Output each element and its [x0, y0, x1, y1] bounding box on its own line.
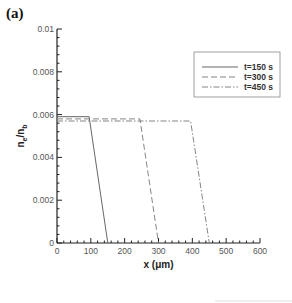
x-tick-label: 500	[219, 246, 233, 256]
x-tick-label: 600	[253, 246, 267, 256]
y-tick-label: 0.002	[33, 195, 55, 205]
x-tick-label: 400	[185, 246, 199, 256]
x-tick-label: 200	[118, 246, 132, 256]
x-tick-label: 300	[151, 246, 165, 256]
series-line-3	[57, 121, 209, 243]
x-tick-label: 0	[55, 246, 60, 256]
legend-label: t=450 s	[244, 82, 273, 92]
line-chart: 010020030040050060000.0020.0040.0060.008…	[0, 0, 292, 303]
x-tick-label: 100	[84, 246, 98, 256]
y-tick-label: 0.01	[37, 24, 54, 34]
y-tick-label: 0.004	[33, 152, 55, 162]
legend-label: t=150 s	[244, 62, 273, 72]
y-tick-label: 0	[49, 238, 54, 248]
y-tick-label: 0.008	[33, 67, 55, 77]
legend-label: t=300 s	[244, 72, 273, 82]
y-axis-title: ne/nb	[15, 124, 28, 147]
x-axis-title: x (μm)	[143, 259, 173, 270]
data-series	[57, 117, 209, 243]
y-tick-label: 0.006	[33, 110, 55, 120]
series-line-1	[57, 117, 108, 243]
series-line-2	[57, 119, 159, 243]
legend: t=150 st=300 st=450 s	[194, 52, 280, 97]
